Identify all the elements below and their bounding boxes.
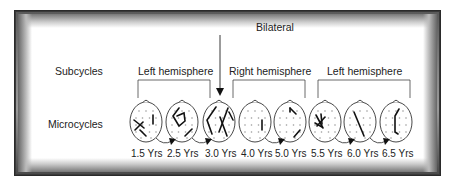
age-label-8: 6.5 Yrs — [382, 148, 414, 159]
age-label-5: 5.0 Yrs — [275, 148, 307, 159]
microcycle-head-7 — [344, 100, 376, 142]
microcycle-head-2 — [166, 100, 198, 142]
age-label-1: 1.5 Yrs — [131, 148, 163, 159]
age-label-2: 2.5 Yrs — [167, 148, 199, 159]
age-label-3: 3.0 Yrs — [205, 148, 237, 159]
microcycle-head-6 — [309, 100, 341, 142]
diagram-graphics — [0, 0, 459, 193]
microcycle-head-3 — [203, 100, 235, 142]
age-label-4: 4.0 Yrs — [241, 148, 273, 159]
subcycle-brackets — [138, 80, 410, 98]
microcycle-head-4 — [239, 100, 271, 142]
age-label-6: 5.5 Yrs — [311, 148, 343, 159]
microcycle-head-1 — [130, 100, 162, 142]
age-label-7: 6.0 Yrs — [347, 148, 379, 159]
microcycle-head-5 — [274, 100, 306, 142]
microcycle-head-8 — [380, 100, 412, 142]
bilateral-arrow — [216, 35, 224, 96]
